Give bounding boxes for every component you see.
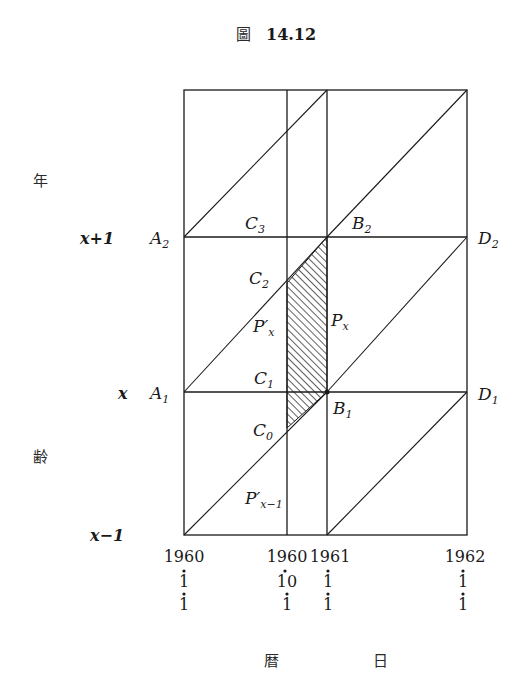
y-tick-x: x	[117, 384, 128, 403]
point-c2: C2	[249, 268, 269, 291]
svg-text:1: 1	[282, 595, 292, 614]
x-tick-1960-1-1: 1960 1 1	[164, 547, 205, 614]
point-a2: A2	[148, 228, 169, 251]
svg-text:1: 1	[458, 595, 468, 614]
svg-text:1961: 1961	[310, 547, 351, 566]
x-axis-label-left: 暦	[264, 652, 279, 670]
point-c1: C1	[254, 368, 274, 391]
hatched-region-px	[287, 237, 327, 428]
y-tick-x-plus-1: x+1	[79, 229, 114, 248]
lexis-diagram: 圖 14.12 年 齢 x+1 A2 x A1 x−1 C3 B2 D2 C2 …	[0, 0, 531, 699]
point-c0: C0	[253, 420, 273, 443]
y-axis-label-bottom: 齢	[33, 448, 48, 466]
svg-text:1960: 1960	[267, 547, 308, 566]
region-px: Px	[330, 310, 349, 333]
svg-text:1: 1	[323, 572, 333, 591]
point-d1: D1	[477, 384, 499, 407]
y-axis-label-top: 年	[33, 172, 48, 190]
point-d2: D2	[477, 228, 499, 251]
svg-text:1: 1	[179, 572, 189, 591]
svg-text:1: 1	[458, 572, 468, 591]
region-p-prime-x-minus-1: P′x−1	[244, 488, 283, 511]
lifeline-6	[327, 90, 467, 237]
lifeline-5	[327, 237, 467, 392]
svg-text:1: 1	[179, 595, 189, 614]
x-tick-1962-1-1: 1962 1 1	[445, 547, 486, 614]
y-tick-x-minus-1: x−1	[89, 526, 124, 545]
x-tick-1960-10-1: 1960 10 1	[267, 547, 308, 614]
svg-text:1960: 1960	[164, 547, 205, 566]
region-p-prime-x: P′x	[252, 316, 275, 339]
point-b2: B2	[351, 213, 372, 236]
point-c3: C3	[245, 213, 265, 236]
figure-title-number: 14.12	[266, 25, 316, 44]
svg-text:1962: 1962	[445, 547, 486, 566]
point-a1: A1	[148, 383, 169, 406]
svg-text:10: 10	[277, 572, 297, 591]
point-b1-marker	[325, 390, 330, 395]
point-b1: B1	[332, 398, 353, 421]
x-axis-label-right: 日	[373, 652, 388, 670]
lifeline-1	[184, 392, 327, 535]
x-tick-1961-1-1: 1961 1 1	[310, 547, 351, 614]
figure-title-prefix: 圖	[236, 26, 251, 44]
svg-text:1: 1	[323, 595, 333, 614]
